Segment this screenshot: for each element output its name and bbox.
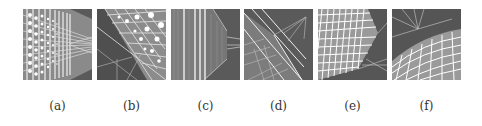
subfigure-f-label: (f) xyxy=(392,99,461,113)
lattice-block-graphic xyxy=(318,9,387,80)
diagonal-plane-graphic xyxy=(244,9,313,80)
subfigure-d-label: (d) xyxy=(244,99,313,113)
striped-plane-graphic xyxy=(171,9,240,80)
tilted-dot-grid-graphic xyxy=(97,9,166,80)
subfigure-c-image xyxy=(171,9,240,80)
subfigure-a-label: (a) xyxy=(23,99,92,113)
subfigure-c-label: (c) xyxy=(171,99,240,113)
curved-lattice-graphic xyxy=(392,9,461,80)
subfigure-d-image xyxy=(244,9,313,80)
dot-grid-perspective-graphic xyxy=(23,9,92,80)
subfigure-e-image xyxy=(318,9,387,80)
subfigure-f-image xyxy=(392,9,461,80)
subfigure-b-label: (b) xyxy=(97,99,166,113)
subfigure-b-image xyxy=(97,9,166,80)
subfigure-e-label: (e) xyxy=(318,99,387,113)
subfigure-a-image xyxy=(23,9,92,80)
